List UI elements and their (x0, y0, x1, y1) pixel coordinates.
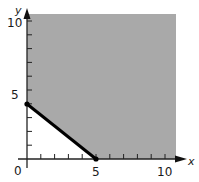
y-tick-label-5: 5 (11, 88, 19, 102)
boundary-point-y-intercept (24, 101, 29, 106)
x-axis-arrow-icon (175, 156, 187, 163)
x-axis-label: x (187, 155, 195, 168)
chart: y x 10 5 0 5 10 (0, 0, 199, 182)
y-axis-arrow-icon (24, 8, 31, 19)
y-tick-label-10: 10 (7, 16, 22, 30)
shaded-region (27, 14, 176, 159)
origin-label: 0 (14, 164, 22, 178)
x-tick-label-5: 5 (92, 165, 100, 179)
boundary-point-x-intercept (93, 156, 98, 161)
x-tick-label-10: 10 (157, 165, 172, 179)
